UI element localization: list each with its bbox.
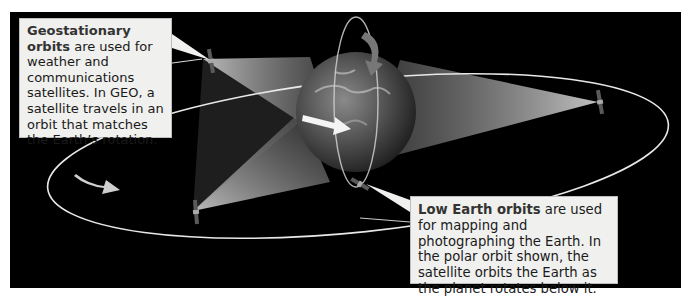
- leo-callout-title: Low Earth orbits: [418, 202, 541, 217]
- geo-callout: Geostationary orbits are used for weathe…: [19, 18, 172, 138]
- geo-callout-pointer: [172, 34, 210, 60]
- geo-orbit-direction-arrow-icon: [74, 174, 120, 194]
- leo-satellite: [350, 176, 370, 191]
- geo-callout-text: are used for weather and communications …: [27, 39, 164, 148]
- earth-globe: [296, 52, 416, 172]
- leo-callout-pointer: [366, 184, 410, 212]
- leo-callout: Low Earth orbits are used for mapping an…: [410, 196, 618, 284]
